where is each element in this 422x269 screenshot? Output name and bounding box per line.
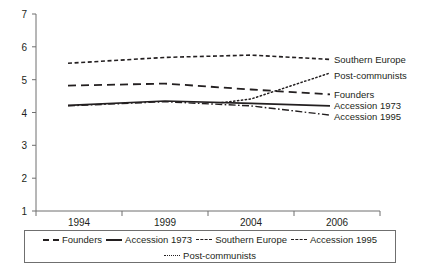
series-label-accession-1973: Accession 1973 xyxy=(334,100,401,111)
line-chart: 7 6 5 4 3 2 1 1994 1999 2004 2006 xyxy=(0,0,422,269)
legend-item-southern-europe: Southern Europe xyxy=(196,235,287,245)
legend-swatch-short-dashed-icon xyxy=(196,236,212,244)
series-line-southern-europe xyxy=(68,55,330,63)
legend-swatch-dotted-icon xyxy=(164,252,180,260)
legend-row-1: Founders Accession 1973 Southern Europe … xyxy=(25,232,395,248)
chart-root: 7 6 5 4 3 2 1 1994 1999 2004 2006 xyxy=(0,0,422,269)
series-label-southern-europe: Southern Europe xyxy=(334,54,406,65)
legend-label: Accession 1973 xyxy=(122,235,192,245)
chart-svg: 7 6 5 4 3 2 1 1994 1999 2004 2006 xyxy=(0,0,422,269)
series-label-accession-1995: Accession 1995 xyxy=(334,111,401,122)
legend-swatch-dash-dot-icon xyxy=(291,236,307,244)
x-tick-labels: 1994 1999 2004 2006 xyxy=(68,217,349,228)
series-label-founders: Founders xyxy=(334,89,374,100)
y-tick-label: 4 xyxy=(21,108,27,119)
y-tick-label: 5 xyxy=(21,75,27,86)
legend-swatch-dashed-icon xyxy=(43,236,59,244)
legend-label: Founders xyxy=(59,235,102,245)
series-label-post-communists: Post-communists xyxy=(334,70,407,81)
x-tick-marks xyxy=(36,211,380,216)
legend-item-founders: Founders xyxy=(43,235,102,245)
legend-label: Accession 1995 xyxy=(307,235,377,245)
x-tick-label: 2004 xyxy=(240,217,263,228)
chart-legend: Founders Accession 1973 Southern Europe … xyxy=(24,230,396,263)
x-tick-label: 1999 xyxy=(154,217,177,228)
legend-swatch-solid-icon xyxy=(106,236,122,244)
x-tick-label: 2006 xyxy=(326,217,349,228)
legend-label: Southern Europe xyxy=(212,235,287,245)
legend-row-2: Post-communists xyxy=(25,248,395,264)
y-tick-label: 6 xyxy=(21,42,27,53)
y-tick-label: 1 xyxy=(21,206,27,217)
y-tick-label: 2 xyxy=(21,173,27,184)
x-tick-label: 1994 xyxy=(68,217,91,228)
legend-label: Post-communists xyxy=(180,251,256,261)
y-tick-labels: 7 6 5 4 3 2 1 xyxy=(21,9,27,217)
y-tick-marks xyxy=(32,14,36,211)
y-tick-label: 7 xyxy=(21,9,27,20)
legend-item-post-communists: Post-communists xyxy=(164,251,256,261)
legend-item-accession-1973: Accession 1973 xyxy=(106,235,192,245)
y-tick-label: 3 xyxy=(21,140,27,151)
legend-item-accession-1995: Accession 1995 xyxy=(291,235,377,245)
